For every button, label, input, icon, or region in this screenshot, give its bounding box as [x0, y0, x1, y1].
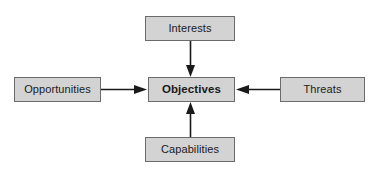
edge-capabilities-to-objectives — [186, 102, 195, 137]
edge-interests-to-objectives — [186, 41, 195, 77]
node-threats-label: Threats — [304, 84, 342, 95]
node-opportunities-label: Opportunities — [24, 84, 91, 95]
node-interests[interactable]: Interests — [145, 16, 235, 41]
node-threats[interactable]: Threats — [280, 77, 365, 102]
node-capabilities[interactable]: Capabilities — [145, 137, 235, 162]
edge-threats-to-objectives — [236, 85, 280, 94]
edge-opportunities-to-objectives — [101, 85, 147, 94]
node-objectives[interactable]: Objectives — [148, 77, 235, 102]
arrowhead-left-icon — [236, 85, 249, 94]
diagram-canvas: Interests Opportunities Objectives Threa… — [0, 0, 378, 176]
arrowhead-up-icon — [186, 102, 195, 114]
arrowhead-down-icon — [186, 65, 195, 77]
node-opportunities[interactable]: Opportunities — [14, 77, 101, 102]
arrowhead-right-icon — [134, 85, 147, 94]
node-capabilities-label: Capabilities — [161, 144, 219, 155]
node-interests-label: Interests — [168, 23, 211, 34]
node-objectives-label: Objectives — [162, 84, 221, 96]
